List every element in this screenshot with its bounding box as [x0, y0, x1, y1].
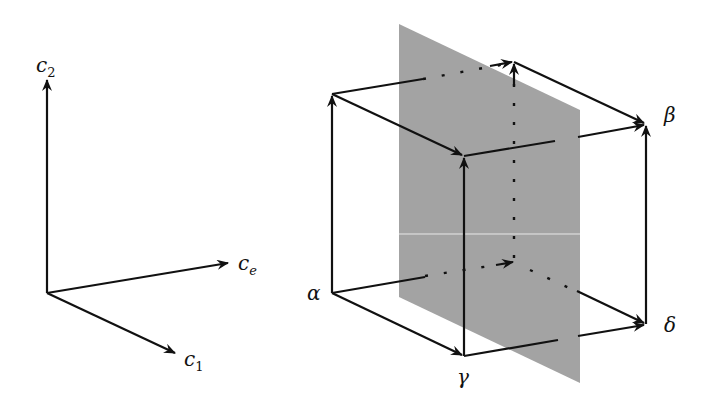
beta-label: β	[663, 103, 676, 127]
c1-label: c1	[184, 347, 203, 374]
alpha-label: α	[307, 281, 321, 305]
coordinate-axes: c2 ce c1	[36, 53, 257, 374]
delta-label: δ	[664, 313, 676, 337]
ce-label: ce	[238, 251, 257, 278]
gamma-label: γ	[457, 365, 469, 389]
edge-gamma-to-delta-b	[578, 325, 644, 336]
ce-axis-arrow	[47, 263, 228, 293]
c1-axis-arrow	[47, 293, 175, 353]
cube-diagram: c2 ce c1	[0, 0, 711, 405]
arrow-to-back-top	[490, 62, 512, 66]
edge-backbottom-to-delta	[577, 291, 644, 323]
edge-topfront-to-beta-b	[578, 125, 644, 137]
c2-label: c2	[36, 53, 55, 80]
cutting-plane	[399, 24, 580, 383]
